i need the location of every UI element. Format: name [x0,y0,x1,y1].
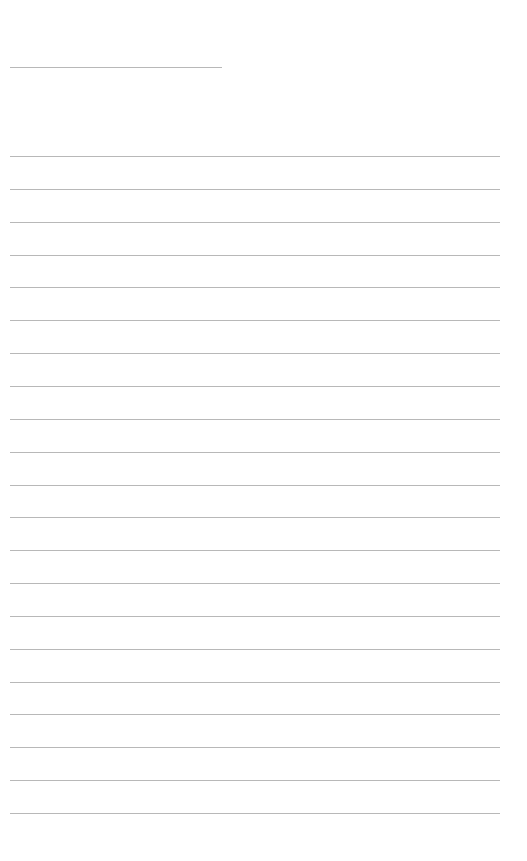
ruled-line [10,222,500,223]
ruled-line [10,583,500,584]
ruled-line [10,386,500,387]
ruled-line [10,780,500,781]
ruled-line [10,747,500,748]
lined-page [0,0,527,861]
ruled-line [10,714,500,715]
title-underline [10,67,222,68]
ruled-line [10,517,500,518]
ruled-line [10,616,500,617]
ruled-line [10,287,500,288]
ruled-line [10,419,500,420]
ruled-line [10,320,500,321]
ruled-line [10,485,500,486]
ruled-line [10,255,500,256]
ruled-line [10,156,500,157]
ruled-line [10,353,500,354]
ruled-line [10,682,500,683]
ruled-line [10,649,500,650]
ruled-line [10,452,500,453]
ruled-line [10,550,500,551]
ruled-line [10,813,500,814]
ruled-line [10,189,500,190]
